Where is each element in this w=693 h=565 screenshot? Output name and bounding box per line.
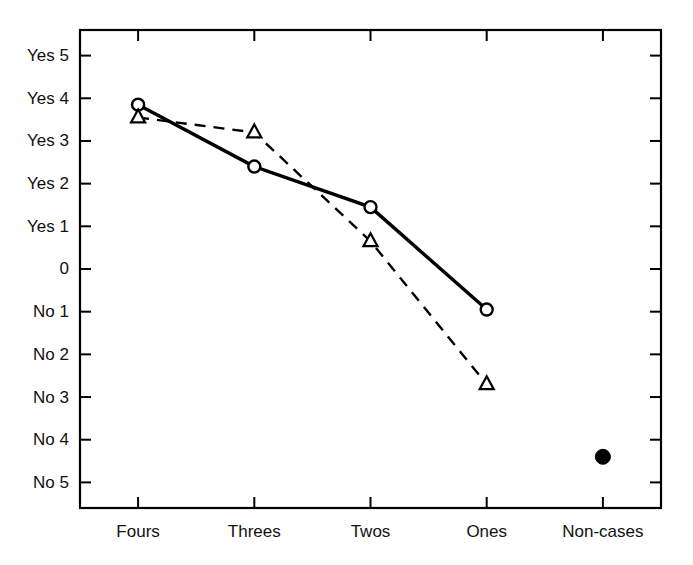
marker-open-circle: [365, 201, 377, 213]
y-axis-label: No 1: [33, 302, 69, 321]
y-axis-label: Yes 3: [27, 131, 69, 150]
x-axis-label: Fours: [116, 522, 159, 541]
y-axis-label: Yes 4: [27, 89, 69, 108]
line-chart: Yes 5Yes 4Yes 3Yes 2Yes 10No 1No 2No 3No…: [0, 0, 693, 565]
x-axis-label: Twos: [351, 522, 391, 541]
marker-open-triangle: [247, 124, 261, 137]
series-line-solid-circle-series: [138, 105, 487, 310]
y-axis-label: 0: [60, 259, 69, 278]
x-axis-label: Non-cases: [562, 522, 643, 541]
marker-open-circle: [248, 161, 260, 173]
y-axis-label: No 3: [33, 388, 69, 407]
marker-open-triangle: [480, 376, 494, 389]
x-axis-label: Threes: [228, 522, 281, 541]
x-axis-label: Ones: [466, 522, 507, 541]
y-axis-label: No 5: [33, 473, 69, 492]
marker-open-circle: [481, 304, 493, 316]
plot-frame: [80, 30, 661, 508]
y-axis-label: Yes 5: [27, 46, 69, 65]
chart-container: Yes 5Yes 4Yes 3Yes 2Yes 10No 1No 2No 3No…: [0, 0, 693, 565]
y-axis-label: Yes 1: [27, 217, 69, 236]
y-axis-label: No 4: [33, 430, 69, 449]
marker-open-triangle: [131, 109, 145, 122]
y-axis-label: Yes 2: [27, 174, 69, 193]
series-line-dashed-triangle-series: [138, 117, 487, 384]
y-axis-label: No 2: [33, 345, 69, 364]
marker-filled-circle: [595, 449, 610, 464]
